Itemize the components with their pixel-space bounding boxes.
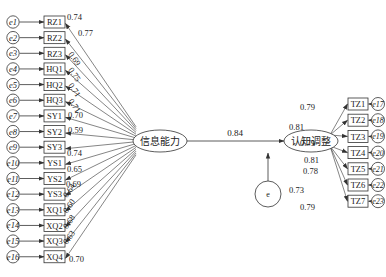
loading-value: 0.59 [68, 125, 83, 135]
indicator-label: SY3 [47, 142, 62, 152]
error-label: e20 [372, 149, 384, 158]
error-label: e10 [7, 158, 20, 168]
error-label: e23 [372, 197, 384, 206]
error-label: e4 [9, 64, 18, 74]
error-label: e11 [7, 174, 19, 184]
sem-diagram: e1RZ10.74e2RZ20.77e3RZ30.69e4HQ10.75e5HQ… [0, 0, 386, 277]
indicator-label: SY2 [47, 127, 62, 137]
disturbance-label: e [266, 190, 270, 199]
indicator-label: TZ4 [351, 148, 366, 158]
error-label: e22 [372, 181, 384, 190]
error-label: e3 [9, 48, 17, 58]
indicator-label: YS2 [47, 174, 62, 184]
error-label: e8 [9, 127, 18, 137]
loading-value: 0.79 [300, 138, 315, 148]
indicator-label: HQ2 [46, 80, 63, 90]
indicator-label: RZ3 [47, 49, 62, 59]
loading-path [330, 120, 348, 135]
indicator-label: TZ3 [351, 132, 366, 142]
indicator-label: YS3 [47, 189, 62, 199]
indicator-label: TZ7 [351, 196, 366, 206]
path-coefficient: 0.84 [227, 128, 243, 138]
loading-value: 0.79 [300, 102, 315, 112]
loading-value: 0.78 [303, 166, 318, 176]
loading-value: 0.65 [67, 164, 82, 174]
error-label: e21 [372, 165, 384, 174]
indicator-label: HQ1 [46, 64, 63, 74]
error-label: e18 [372, 116, 384, 125]
error-label: e15 [7, 236, 19, 246]
error-label: e6 [9, 95, 18, 105]
error-label: e16 [7, 252, 20, 262]
error-label: e19 [372, 132, 384, 141]
loading-path [330, 146, 348, 201]
sem-diagram-canvas: e1RZ10.74e2RZ20.77e3RZ30.69e4HQ10.75e5HQ… [0, 0, 386, 277]
error-label: e7 [9, 111, 18, 121]
error-label: e9 [9, 142, 18, 152]
indicator-label: RZ1 [47, 17, 62, 27]
indicator-label: XQ4 [46, 252, 63, 262]
error-label: e13 [7, 205, 19, 215]
loading-value: 0.77 [78, 28, 93, 38]
error-label: e14 [7, 220, 20, 230]
loading-path [330, 104, 348, 135]
loading-value: 0.79 [300, 202, 315, 212]
loading-value: 0.74 [67, 12, 83, 22]
loading-value: 0.70 [69, 254, 84, 264]
indicator-label: SY1 [47, 111, 62, 121]
error-label: e5 [9, 80, 17, 90]
error-label: e12 [7, 189, 20, 199]
loading-value: 0.81 [289, 122, 304, 132]
error-label: e2 [9, 33, 18, 43]
indicator-label: YS1 [47, 158, 62, 168]
loading-value: 0.73 [289, 185, 304, 195]
indicator-label: TZ1 [351, 99, 366, 109]
indicator-label: HQ3 [46, 95, 63, 105]
error-label: e1 [9, 17, 17, 27]
latent-label: 信息能力 [140, 135, 180, 147]
loading-value: 0.74 [67, 148, 83, 158]
indicator-label: TZ2 [351, 115, 366, 125]
indicator-label: TZ5 [351, 164, 366, 174]
indicator-label: TZ6 [351, 180, 366, 190]
error-label: e17 [372, 100, 385, 109]
loading-value: 0.70 [68, 110, 83, 120]
loading-value: 0.81 [304, 155, 319, 165]
indicator-label: RZ2 [47, 33, 62, 43]
